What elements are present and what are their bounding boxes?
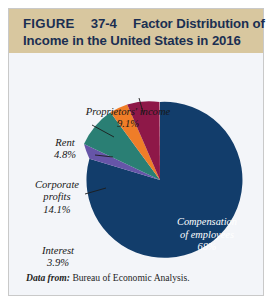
figure-title-part-2: Income in the United States in 2016	[23, 33, 241, 48]
slice-label-interest-name: Interest	[23, 245, 93, 257]
figure-number: 37-4	[91, 16, 117, 31]
slice-label-compensation-name-2: of employees	[155, 229, 259, 242]
source-note-prefix: Data from:	[26, 272, 70, 283]
slice-label-proprietors-value: 9.1%	[69, 118, 187, 130]
slice-label-compensation: Compensation of employees 68%	[155, 216, 259, 254]
source-note: Data from: Bureau of Economic Analysis.	[26, 272, 190, 283]
figure-card: FIGURE 37-4 Factor Distribution of Incom…	[0, 0, 274, 304]
slice-label-interest: Interest 3.9%	[23, 245, 93, 270]
slice-label-compensation-value: 68%	[155, 241, 259, 254]
figure-title-bar: FIGURE 37-4 Factor Distribution of Incom…	[9, 9, 263, 53]
slice-label-corporate-value: 14.1%	[15, 204, 99, 216]
slice-label-interest-value: 3.9%	[23, 257, 93, 269]
figure-title-line-1: FIGURE 37-4 Factor Distribution of	[23, 15, 251, 32]
slice-label-corporate-profits: Corporate profits 14.1%	[15, 179, 99, 216]
slice-label-rent-value: 4.8%	[35, 149, 95, 161]
slice-label-compensation-name-1: Compensation	[155, 216, 259, 229]
source-note-text: Bureau of Economic Analysis.	[72, 272, 189, 283]
slice-label-corporate-name-1: Corporate	[15, 179, 99, 191]
slice-label-corporate-name-2: profits	[15, 191, 99, 203]
figure-title-line-2: Income in the United States in 2016	[23, 32, 251, 49]
slice-label-proprietors-income: Proprietors' income 9.1%	[69, 106, 187, 131]
slice-label-rent: Rent 4.8%	[35, 137, 95, 162]
figure-label: FIGURE	[23, 16, 75, 31]
slice-label-rent-name: Rent	[35, 137, 95, 149]
slice-label-proprietors-name: Proprietors' income	[69, 106, 187, 118]
chart-plot-area: Proprietors' income 9.1% Rent 4.8% Corpo…	[9, 53, 263, 265]
figure-title-part-1: Factor Distribution of	[133, 16, 265, 31]
